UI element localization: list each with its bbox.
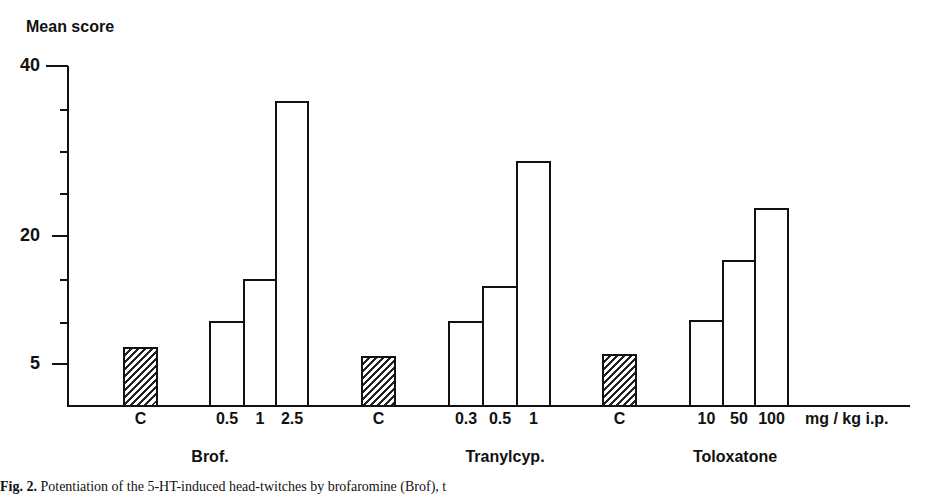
group-label-toloxatone: Toloxatone bbox=[680, 448, 790, 466]
bar-brof-1 bbox=[243, 279, 277, 407]
bar-tranyl-1 bbox=[516, 161, 551, 407]
bar-tolox-control bbox=[602, 354, 637, 407]
x-label-tranyl-c: C bbox=[361, 410, 396, 428]
x-label-tranyl-0.5: 0.5 bbox=[482, 410, 518, 428]
x-label-tolox-c: C bbox=[602, 410, 637, 428]
bar-tolox-50 bbox=[722, 260, 756, 407]
y-tick-label-40: 40 bbox=[0, 55, 40, 76]
y-tick-5 bbox=[52, 363, 68, 365]
x-label-tranyl-0.3: 0.3 bbox=[448, 410, 484, 428]
y-tick-10 bbox=[60, 322, 68, 324]
y-tick-15 bbox=[60, 279, 68, 281]
x-label-brof-2.5: 2.5 bbox=[275, 410, 309, 428]
x-label-tolox-10: 10 bbox=[689, 410, 724, 428]
y-tick-20 bbox=[52, 235, 68, 237]
bar-tranyl-0.3 bbox=[448, 321, 484, 407]
x-label-brof-0.5: 0.5 bbox=[209, 410, 245, 428]
figure-caption: Fig. 2. Potentiation of the 5-HT-induced… bbox=[0, 479, 446, 495]
bar-tranyl-control bbox=[361, 356, 396, 407]
group-label-brof: Brof. bbox=[170, 448, 250, 466]
group-label-tranylcyp: Tranylcyp. bbox=[455, 448, 555, 466]
caption-figure-number: Fig. 2. bbox=[0, 479, 37, 494]
bar-tolox-100 bbox=[754, 208, 789, 407]
x-label-brof-c: C bbox=[123, 410, 158, 428]
bar-tolox-10 bbox=[689, 320, 724, 407]
x-label-tolox-100: 100 bbox=[754, 410, 789, 428]
y-tick-35 bbox=[60, 109, 68, 111]
x-label-tranyl-1: 1 bbox=[516, 410, 551, 428]
y-tick-label-20: 20 bbox=[0, 225, 40, 246]
bar-tranyl-0.5 bbox=[482, 286, 518, 407]
y-tick-30 bbox=[60, 151, 68, 153]
y-axis-title: Mean score bbox=[26, 18, 114, 36]
y-tick-25 bbox=[60, 193, 68, 195]
y-tick-label-5: 5 bbox=[0, 353, 40, 374]
bar-brof-2.5 bbox=[275, 101, 309, 407]
y-tick-40 bbox=[46, 65, 68, 67]
x-unit-label: mg / kg i.p. bbox=[805, 410, 889, 428]
x-label-tolox-50: 50 bbox=[722, 410, 756, 428]
bar-brof-control bbox=[123, 347, 158, 407]
x-label-brof-1: 1 bbox=[243, 410, 277, 428]
bar-brof-0.5 bbox=[209, 321, 245, 407]
caption-text: Potentiation of the 5-HT-induced head-tw… bbox=[37, 479, 446, 494]
